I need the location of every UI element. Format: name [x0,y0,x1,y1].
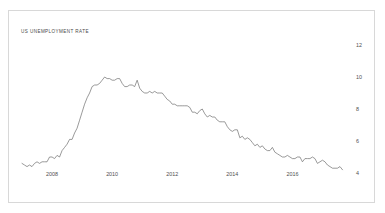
line-chart-plot: 1210864 20082010201220142016 [0,0,385,213]
y-tick-label: 4 [356,170,359,176]
y-tick-label: 6 [356,138,359,144]
y-tick-label: 12 [356,42,362,48]
unemployment-rate-line [22,77,343,170]
chart-screenshot: US UNEMPLOYMENT RATE 1210864 20082010201… [0,0,385,213]
y-tick-label: 8 [356,106,359,112]
x-tick-label: 2016 [286,171,298,177]
x-tick-label: 2012 [166,171,178,177]
x-axis-ticks: 20082010201220142016 [46,171,298,177]
x-tick-label: 2014 [226,171,238,177]
y-axis-ticks: 1210864 [356,42,362,176]
x-tick-label: 2010 [106,171,118,177]
x-tick-label: 2008 [46,171,58,177]
y-tick-label: 10 [356,74,362,80]
